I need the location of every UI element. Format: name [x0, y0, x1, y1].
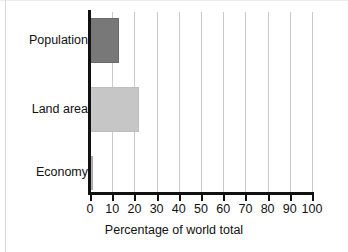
bar-land-area	[90, 87, 139, 132]
frame-left-rule	[5, 0, 6, 252]
x-tick-label-70: 70	[238, 203, 252, 216]
gridline-70	[245, 12, 246, 193]
category-label-land-area: Land area	[32, 103, 88, 116]
tick-20	[134, 195, 136, 201]
x-tick-label-0: 0	[87, 203, 94, 216]
tick-100	[312, 195, 314, 201]
tick-10	[112, 195, 114, 201]
tick-0	[90, 195, 92, 201]
frame-top-rule	[0, 0, 348, 1]
tick-70	[245, 195, 247, 201]
tick-40	[179, 195, 181, 201]
gridline-40	[179, 12, 180, 193]
x-tick-label-100: 100	[302, 203, 323, 216]
bar-population	[90, 18, 119, 63]
tick-80	[268, 195, 270, 201]
tick-90	[290, 195, 292, 201]
gridline-30	[157, 12, 158, 193]
tick-60	[223, 195, 225, 201]
gridline-60	[223, 12, 224, 193]
tick-30	[157, 195, 159, 201]
gridline-80	[268, 12, 269, 193]
category-label-population: Population	[29, 34, 88, 47]
category-label-economy: Economy	[36, 166, 88, 179]
x-tick-label-40: 40	[172, 203, 186, 216]
gridline-100	[312, 12, 313, 193]
gridline-50	[201, 12, 202, 193]
x-axis-title: Percentage of world total	[0, 224, 348, 237]
bar-chart: PopulationLand areaEconomy 0102030405060…	[0, 0, 348, 252]
x-tick-label-20: 20	[127, 203, 141, 216]
x-tick-label-60: 60	[216, 203, 230, 216]
x-tick-label-30: 30	[150, 203, 164, 216]
plot-area	[90, 12, 312, 193]
y-axis-line	[88, 10, 91, 195]
x-tick-label-80: 80	[261, 203, 275, 216]
x-tick-label-10: 10	[105, 203, 119, 216]
gridline-90	[290, 12, 291, 193]
tick-50	[201, 195, 203, 201]
x-tick-label-50: 50	[194, 203, 208, 216]
x-tick-label-90: 90	[283, 203, 297, 216]
